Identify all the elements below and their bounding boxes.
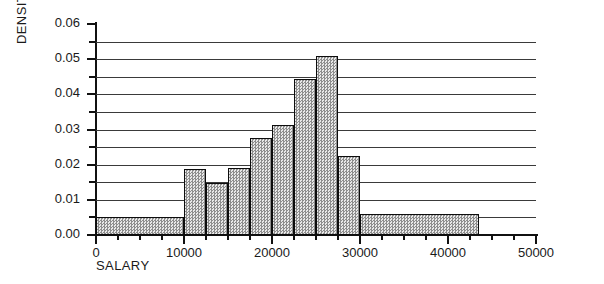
x-axis-tick (535, 234, 537, 244)
y-axis-minor-tick (89, 216, 96, 218)
x-axis-tick-label: 20000 (254, 245, 290, 260)
y-axis-tick-label: 0.02 (34, 156, 80, 171)
y-axis-minor-tick (89, 76, 96, 78)
y-axis-title: DENSITY (14, 0, 34, 44)
y-axis-tick-label: 0.00 (34, 226, 80, 241)
histogram-bar (96, 217, 184, 235)
x-axis-tick (271, 234, 273, 244)
x-axis-tick (447, 234, 449, 244)
histogram-bars (96, 24, 536, 235)
histogram-bar (228, 168, 250, 235)
x-axis-tick-label: 30000 (342, 245, 378, 260)
y-axis-tick (87, 199, 96, 201)
x-axis-tick (359, 234, 361, 244)
y-axis-tick (87, 23, 96, 25)
histogram-bar (184, 169, 206, 235)
y-axis-minor-tick (89, 146, 96, 148)
histogram-bar (316, 56, 338, 235)
y-axis-tick (87, 93, 96, 95)
x-axis-tick-label: 10000 (166, 245, 202, 260)
histogram-figure: DENSITY SALARY 0.000.010.020.030.040.050… (0, 0, 604, 284)
y-axis-tick (87, 129, 96, 131)
x-axis-tick-label: 40000 (430, 245, 466, 260)
y-axis-tick-label: 0.03 (34, 121, 80, 136)
histogram-bar (250, 138, 272, 235)
x-axis-tick (183, 234, 185, 244)
y-axis-tick-label: 0.06 (34, 15, 80, 30)
histogram-bar (338, 156, 360, 235)
y-axis-tick-label: 0.05 (34, 50, 80, 65)
histogram-bar (206, 183, 228, 235)
y-axis-tick (87, 58, 96, 60)
x-axis-tick-label: 0 (92, 245, 99, 260)
y-axis-tick-label: 0.01 (34, 191, 80, 206)
y-axis-tick (87, 164, 96, 166)
x-axis-title: SALARY (96, 258, 149, 273)
y-axis-minor-tick (89, 41, 96, 43)
y-axis-tick-label: 0.04 (34, 85, 80, 100)
x-axis-tick (95, 234, 97, 244)
y-axis-minor-tick (89, 111, 96, 113)
histogram-bar (272, 125, 294, 235)
histogram-bar (360, 214, 479, 235)
y-axis-minor-tick (89, 181, 96, 183)
histogram-bar (294, 79, 316, 235)
x-axis-tick-label: 50000 (518, 245, 554, 260)
